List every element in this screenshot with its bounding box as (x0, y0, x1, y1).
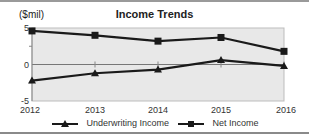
line-chart: 50-520122013201420152016 (0, 0, 309, 134)
bottom-border (0, 132, 309, 134)
y-tick-label: 5 (24, 23, 29, 33)
square-marker-icon (281, 48, 288, 55)
square-marker-icon (29, 27, 36, 34)
legend-item-underwriting: Underwriting Income (52, 118, 169, 129)
square-marker-icon (178, 119, 204, 129)
square-marker-icon (92, 32, 99, 39)
legend-label: Net Income (213, 118, 259, 128)
x-tick-label: 2015 (211, 105, 231, 115)
square-marker-icon (218, 34, 225, 41)
square-marker-icon (155, 38, 162, 45)
legend-item-net-income: Net Income (178, 118, 259, 129)
x-tick-label: 2012 (20, 105, 40, 115)
legend-label: Underwriting Income (87, 118, 170, 128)
y-tick-label: 0 (24, 60, 29, 70)
x-tick-label: 2013 (85, 105, 105, 115)
x-tick-label: 2016 (276, 105, 296, 115)
x-tick-label: 2014 (148, 105, 168, 115)
triangle-marker-icon (52, 119, 78, 129)
